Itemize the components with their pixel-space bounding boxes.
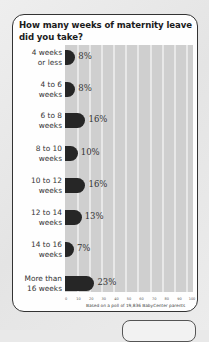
x-tick-label: 10 xyxy=(76,297,80,301)
bar xyxy=(65,178,85,193)
next-card-edge xyxy=(122,320,196,342)
category-label: 6 to 8weeks xyxy=(14,111,62,131)
x-tick-label: 30 xyxy=(102,297,106,301)
value-label: 8% xyxy=(78,83,92,93)
category-label: 14 to 16weeks xyxy=(14,240,62,260)
gridline xyxy=(125,45,127,292)
x-tick-label: 0 xyxy=(65,297,67,301)
gridline xyxy=(174,45,176,292)
bar xyxy=(65,113,85,128)
category-label: 4 weeksor less xyxy=(14,48,62,68)
category-label: 10 to 12weeks xyxy=(14,176,62,196)
category-label: 4 to 6weeks xyxy=(14,80,62,100)
value-label: 10% xyxy=(81,147,100,157)
x-tick-label: 20 xyxy=(89,297,93,301)
gridline xyxy=(186,45,188,292)
category-label: More than16 weeks xyxy=(14,274,62,294)
gridline xyxy=(150,45,152,292)
category-label: 12 to 14weeks xyxy=(14,208,62,228)
gridline xyxy=(101,45,103,292)
x-tick-label: 50 xyxy=(127,297,131,301)
gridline xyxy=(162,45,164,292)
value-label: 23% xyxy=(97,277,116,287)
value-label: 16% xyxy=(88,179,107,189)
bar xyxy=(65,210,82,225)
footnote: Based on a poll of 19,836 BabyCenter par… xyxy=(86,303,185,308)
gridline xyxy=(113,45,115,292)
gridline xyxy=(137,45,139,292)
x-tick-label: 80 xyxy=(165,297,169,301)
value-label: 16% xyxy=(88,114,107,124)
x-tick-label: 90 xyxy=(177,297,181,301)
x-tick-label: 60 xyxy=(139,297,143,301)
category-label: 8 to 10weeks xyxy=(14,144,62,164)
value-label: 7% xyxy=(77,243,91,253)
value-label: 8% xyxy=(78,51,92,61)
value-label: 13% xyxy=(85,211,104,221)
x-tick-label: 70 xyxy=(152,297,156,301)
x-tick-label: 40 xyxy=(114,297,118,301)
chart-title: How many weeks of maternity leave did yo… xyxy=(19,19,199,43)
x-tick-label: 100 xyxy=(189,297,196,301)
bar xyxy=(65,276,94,291)
